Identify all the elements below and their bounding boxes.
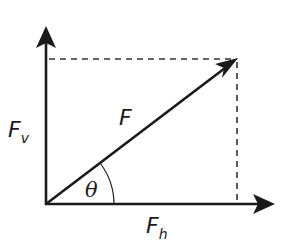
- angle-arc: [100, 163, 114, 204]
- force-diagram: Fv F θ Fh: [0, 0, 283, 248]
- horizontal-component-label: Fh: [146, 213, 168, 242]
- force-label: F: [119, 105, 132, 130]
- force-arrowhead-icon: [215, 58, 238, 78]
- force-vector-arrow: [46, 65, 229, 204]
- vertical-component-label: Fv: [8, 117, 30, 146]
- angle-label: θ: [85, 178, 98, 202]
